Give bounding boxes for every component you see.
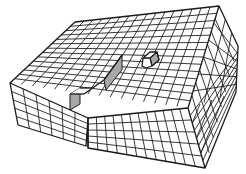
grid-block-diagram [0,0,246,174]
diagram-canvas: Isometric grid block with raised step an… [0,0,246,174]
